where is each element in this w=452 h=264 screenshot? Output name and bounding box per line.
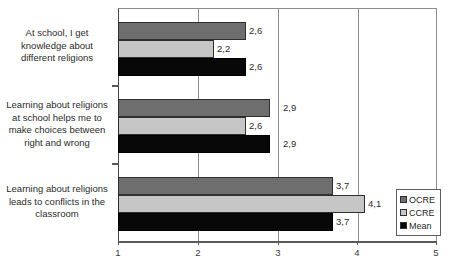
legend-label-ccre: CCRE <box>409 208 435 218</box>
legend: OCRE CCRE Mean <box>396 189 441 236</box>
category-label-1: At school, I get knowledge about differe… <box>0 27 114 65</box>
bar-value-mean-2: 2,9 <box>283 135 296 153</box>
legend-label-mean: Mean <box>409 221 432 231</box>
bar-value-ccre-3: 4,1 <box>368 195 381 213</box>
legend-item-mean: Mean <box>400 219 437 232</box>
bar-value-mean-1: 2,6 <box>249 58 262 76</box>
bar-ocre-2 <box>118 99 270 117</box>
bar-value-ccre-1: 2,2 <box>217 40 230 58</box>
x-tick-label-1: 1 <box>103 247 133 258</box>
category-label-2-line-2: at school helps me to <box>0 112 114 125</box>
bar-value-mean-3: 3,7 <box>336 213 349 231</box>
legend-item-ocre: OCRE <box>400 193 437 206</box>
category-label-2-line-1: Learning about religions <box>0 99 114 112</box>
x-tick-label-3: 3 <box>263 247 293 258</box>
x-tick-mark-2 <box>198 241 199 245</box>
category-label-1-line-1: At school, I get <box>0 27 114 40</box>
legend-label-ocre: OCRE <box>409 195 435 205</box>
grouped-bar-chart: At school, I get knowledge about differe… <box>0 0 452 264</box>
category-label-1-line-2: knowledge about <box>0 40 114 53</box>
y-category-tick-1 <box>112 85 118 87</box>
y-category-tick-2 <box>112 163 118 165</box>
category-label-3-line-3: classroom <box>0 208 114 221</box>
bar-value-ccre-2: 2,6 <box>249 117 262 135</box>
x-tick-mark-4 <box>357 241 358 245</box>
bar-value-ocre-3: 3,7 <box>336 177 349 195</box>
x-tick-label-2: 2 <box>183 247 213 258</box>
category-label-2: Learning about religions at school helps… <box>0 99 114 149</box>
x-tick-mark-1 <box>118 241 119 245</box>
legend-item-ccre: CCRE <box>400 206 437 219</box>
bar-ocre-3 <box>118 177 333 195</box>
bar-mean-3 <box>118 213 333 231</box>
x-tick-label-5: 5 <box>421 247 451 258</box>
x-tick-mark-5 <box>436 241 437 245</box>
bar-ccre-3 <box>118 195 365 213</box>
category-label-1-line-3: different religions <box>0 52 114 65</box>
category-label-3-line-2: leads to conflicts in the <box>0 196 114 209</box>
bar-ocre-1 <box>118 22 246 40</box>
bar-value-ocre-1: 2,6 <box>249 22 262 40</box>
bar-mean-2 <box>118 135 270 153</box>
category-label-2-line-3: make choices between <box>0 124 114 137</box>
x-tick-mark-3 <box>278 241 279 245</box>
category-label-3-line-1: Learning about religions <box>0 183 114 196</box>
bar-ccre-1 <box>118 40 214 58</box>
bar-mean-1 <box>118 58 246 76</box>
category-label-2-line-4: right and wrong <box>0 137 114 150</box>
bar-value-ocre-2: 2,9 <box>283 99 296 117</box>
category-label-3: Learning about religions leads to confli… <box>0 183 114 221</box>
legend-swatch-mean-icon <box>400 222 407 229</box>
bar-ccre-2 <box>118 117 246 135</box>
x-tick-label-4: 4 <box>342 247 372 258</box>
legend-swatch-ccre-icon <box>400 209 407 216</box>
legend-swatch-ocre-icon <box>400 196 407 203</box>
